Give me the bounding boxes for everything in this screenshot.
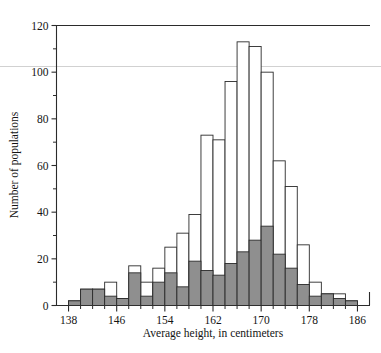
histogram-bar-shaded xyxy=(333,299,345,306)
histogram-bar-shaded xyxy=(225,264,237,306)
y-tick-label: 40 xyxy=(37,206,49,218)
histogram-bar-shaded xyxy=(129,273,141,306)
histogram-bar-shaded xyxy=(69,301,81,306)
y-tick-label: 0 xyxy=(43,300,49,312)
histogram-bar-shaded xyxy=(201,271,213,306)
histogram-bar-shaded xyxy=(153,282,165,305)
y-axis-title: Number of populations xyxy=(8,111,21,218)
histogram-bar-shaded xyxy=(321,294,333,306)
histogram-bar-shaded xyxy=(261,226,273,305)
x-tick-label: 154 xyxy=(156,314,174,326)
histogram-bar-shaded xyxy=(273,254,285,305)
histogram-bar-shaded xyxy=(309,296,321,305)
x-tick-label: 146 xyxy=(108,314,126,326)
x-tick-label: 162 xyxy=(204,314,222,326)
bars-total-series xyxy=(69,42,358,306)
x-axis-tick-labels: 138146154162170178186 xyxy=(60,314,366,326)
histogram-svg: 020406080100120 138146154162170178186 Av… xyxy=(0,0,381,353)
histogram-bar-shaded xyxy=(345,301,357,306)
histogram-figure: 020406080100120 138146154162170178186 Av… xyxy=(0,0,381,353)
y-tick-label: 80 xyxy=(37,113,49,125)
x-tick-label: 178 xyxy=(301,314,319,326)
histogram-bar-shaded xyxy=(141,296,153,305)
x-axis-title: Average height, in centimeters xyxy=(143,327,284,340)
histogram-bar-shaded xyxy=(117,299,129,306)
histogram-bar-shaded xyxy=(297,285,309,306)
histogram-bar-shaded xyxy=(237,252,249,306)
histogram-bar-shaded xyxy=(213,275,225,305)
histogram-bar-shaded xyxy=(285,268,297,305)
histogram-bar-shaded xyxy=(105,296,117,305)
y-tick-label: 60 xyxy=(37,160,49,172)
histogram-bar-shaded xyxy=(165,273,177,306)
histogram-bar-shaded xyxy=(93,289,105,305)
y-axis-ticks xyxy=(52,26,57,306)
x-axis-ticks xyxy=(69,306,358,312)
y-axis-tick-labels: 020406080100120 xyxy=(31,20,49,312)
histogram-bar-shaded xyxy=(177,287,189,306)
y-tick-label: 120 xyxy=(31,20,49,32)
histogram-bar-shaded xyxy=(81,289,93,305)
x-tick-label: 170 xyxy=(253,314,271,326)
y-tick-label: 100 xyxy=(31,66,49,78)
histogram-bar-shaded xyxy=(249,240,261,305)
x-tick-label: 138 xyxy=(60,314,78,326)
x-tick-label: 186 xyxy=(349,314,367,326)
y-tick-label: 20 xyxy=(37,253,49,265)
histogram-bar-shaded xyxy=(189,261,201,305)
